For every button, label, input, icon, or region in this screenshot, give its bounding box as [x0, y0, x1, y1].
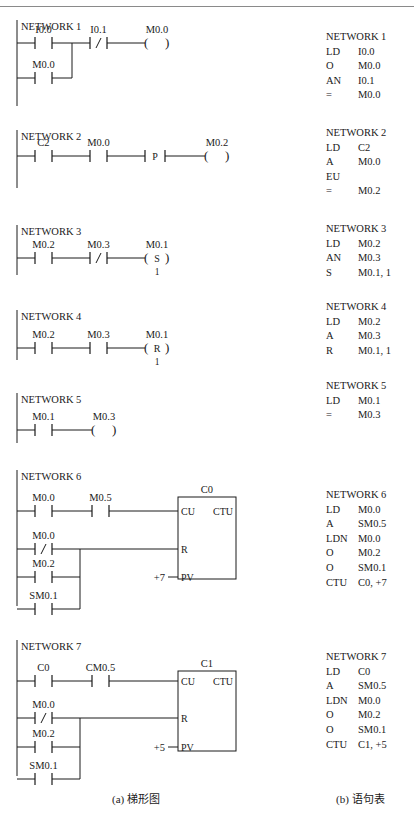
coil: ()M0.0: [144, 24, 169, 50]
stl-opcode: A: [326, 517, 358, 532]
stl-opcode: O: [326, 546, 358, 561]
stl-instruction: LDM0.1: [326, 394, 386, 409]
svg-text:R: R: [181, 713, 188, 724]
network-title: NETWORK 2: [21, 131, 81, 142]
svg-text:(: (: [204, 148, 208, 163]
network-title: NETWORK 6: [21, 471, 81, 482]
stl-operand: M0.2: [358, 237, 380, 252]
svg-text:): ): [225, 148, 229, 163]
contact-label: C2: [37, 137, 49, 148]
statement-list-caption: (b) 语句表: [336, 790, 385, 806]
stl-opcode: LDN: [326, 532, 358, 547]
stl-instruction: OSM0.1: [326, 561, 387, 576]
stl-network-2: NETWORK 2LDC2AM0.0EU=M0.2: [326, 126, 386, 199]
coil-label: M0.3: [93, 411, 115, 422]
stl-opcode: AN: [326, 251, 358, 266]
contact-label: M0.0: [87, 137, 109, 148]
stl-instruction: LDM0.2: [326, 237, 391, 252]
stl-operand: C2: [358, 141, 370, 156]
stl-opcode: CTU: [326, 576, 358, 591]
stl-operand: SM0.5: [358, 517, 386, 532]
stl-operand: SM0.1: [358, 723, 386, 738]
stl-opcode: A: [326, 155, 358, 170]
stl-operand: C0, +7: [358, 576, 387, 591]
nc-contact: I0.1: [90, 24, 107, 49]
counter-block-C1: C1CUCTURPV+5: [154, 658, 236, 753]
svg-text:(: (: [144, 250, 148, 265]
stl-operand: M0.0: [358, 532, 380, 547]
stl-opcode: CTU: [326, 738, 358, 753]
stl-operand: M0.1, 1: [358, 266, 391, 281]
svg-text:P: P: [152, 151, 158, 162]
stl-instruction: LDI0.0: [326, 45, 386, 60]
svg-text:): ): [165, 340, 169, 355]
stl-operand: M0.0: [358, 503, 380, 518]
svg-text:): ): [112, 422, 116, 437]
contact-label: M0.0: [32, 492, 54, 503]
stl-operand: M0.2: [358, 546, 380, 561]
stl-opcode: LD: [326, 503, 358, 518]
svg-text:R: R: [154, 343, 161, 354]
contact-label: M0.5: [89, 492, 111, 503]
stl-opcode: O: [326, 59, 358, 74]
stl-instruction: AM0.0: [326, 155, 386, 170]
stl-instruction: OM0.2: [326, 708, 387, 723]
stl-opcode: O: [326, 708, 358, 723]
network-title: NETWORK 5: [21, 394, 81, 405]
stl-opcode: A: [326, 329, 358, 344]
no-contact: M0.0: [32, 59, 54, 84]
no-contact: M0.0: [32, 492, 54, 517]
stl-instruction: EU: [326, 170, 386, 185]
stl-instruction: SM0.1, 1: [326, 266, 391, 281]
stl-instruction: LDNM0.0: [326, 694, 387, 709]
stl-operand: I0.1: [358, 74, 375, 89]
coil-label: M0.1: [146, 329, 168, 340]
svg-text:1: 1: [155, 267, 160, 277]
contact-label: M0.2: [32, 329, 54, 340]
stl-operand: M0.1, 1: [358, 344, 391, 359]
contact-label: M0.0: [32, 59, 54, 70]
coil: ()SM0.11: [144, 239, 169, 277]
contact-label: SM0.1: [29, 760, 57, 771]
svg-text:(: (: [91, 422, 95, 437]
stl-network-title: NETWORK 5: [326, 379, 386, 394]
stl-operand: M0.3: [358, 408, 380, 423]
coil-label: M0.2: [206, 137, 228, 148]
stl-network-title: NETWORK 4: [326, 300, 391, 315]
svg-text:(: (: [144, 35, 148, 50]
stl-instruction: LDM0.0: [326, 503, 387, 518]
no-contact: CM0.5: [86, 662, 115, 687]
stl-network-5: NETWORK 5LDM0.1=M0.3: [326, 379, 386, 423]
stl-operand: M0.0: [358, 88, 380, 103]
stl-opcode: EU: [326, 170, 358, 185]
svg-text:CTU: CTU: [213, 676, 234, 687]
nc-contact: M0.0: [32, 530, 54, 555]
stl-instruction: ASM0.5: [326, 517, 387, 532]
stl-instruction: =M0.0: [326, 88, 386, 103]
contact-label: M0.0: [32, 699, 54, 710]
stl-instruction: CTUC1, +5: [326, 738, 387, 753]
stl-operand: M0.0: [358, 59, 380, 74]
svg-text:CU: CU: [181, 506, 196, 517]
network-5: NETWORK 5M0.1()M0.3: [17, 393, 116, 443]
stl-instruction: =M0.3: [326, 408, 386, 423]
stl-opcode: AN: [326, 74, 358, 89]
network-title: NETWORK 4: [21, 311, 82, 322]
network-4: NETWORK 4M0.2M0.3()RM0.11: [17, 310, 169, 367]
contact-label: M0.2: [32, 239, 54, 250]
no-contact: SM0.1: [29, 590, 57, 615]
ladder-caption: (a) 梯形图: [112, 790, 160, 806]
stl-instruction: LDC0: [326, 665, 387, 680]
stl-opcode: LD: [326, 141, 358, 156]
network-title: NETWORK 3: [21, 226, 81, 237]
no-contact: C0: [35, 662, 52, 687]
stl-network-1: NETWORK 1LDI0.0OM0.0ANI0.1=M0.0: [326, 30, 386, 103]
stl-opcode: =: [326, 88, 358, 103]
no-contact: M0.5: [89, 492, 111, 517]
stl-instruction: LDC2: [326, 141, 386, 156]
contact-label: CM0.5: [86, 662, 115, 673]
svg-text:CTU: CTU: [213, 506, 234, 517]
contact-label: SM0.1: [29, 590, 57, 601]
stl-opcode: S: [326, 266, 358, 281]
stl-network-title: NETWORK 3: [326, 222, 391, 237]
